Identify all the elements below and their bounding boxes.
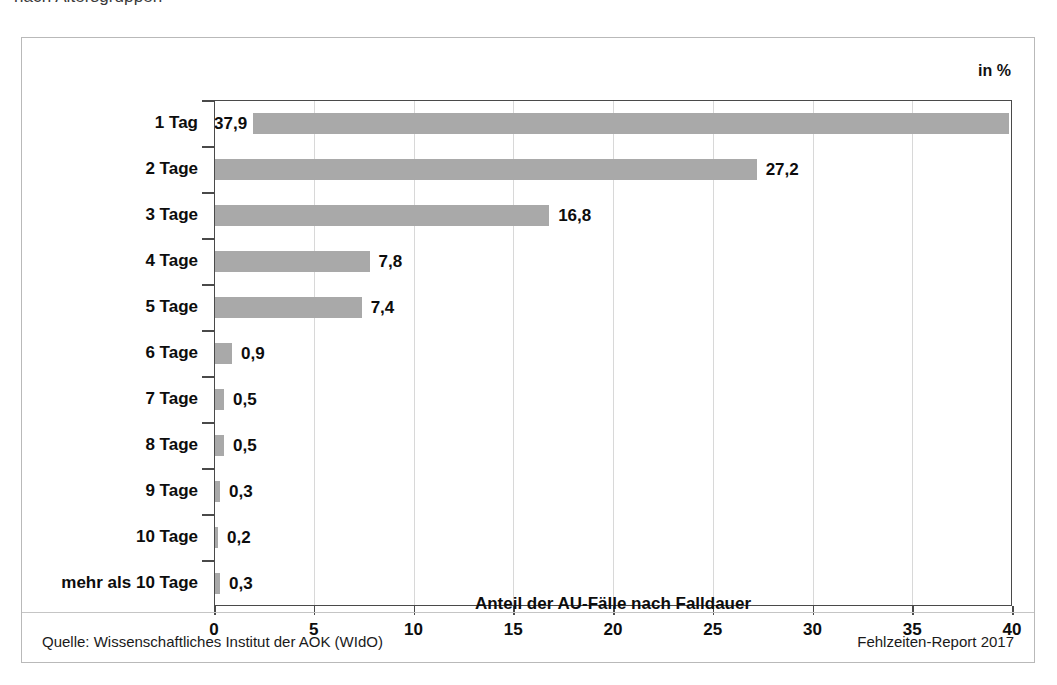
bar[interactable] [214,297,362,318]
bar-row[interactable]: 0,3 [214,570,1012,596]
plot-area: 37,927,216,87,87,40,90,50,50,30,20,3 [214,100,1012,606]
category-label: 1 Tag [155,114,198,131]
category-label: mehr als 10 Tage [61,574,198,591]
category-label: 5 Tage [145,298,198,315]
y-axis-tick [202,284,214,286]
category-label: 8 Tage [145,436,198,453]
figure-container: in % 37,927,216,87,87,40,90,50,50,30,20,… [21,37,1035,663]
bar-row[interactable]: 37,9 [214,110,1012,136]
y-axis-tick [202,560,214,562]
footer-report: Fehlzeiten-Report 2017 [857,633,1014,650]
category-label: 10 Tage [136,528,198,545]
bar[interactable] [214,481,220,502]
footer-source: Quelle: Wissenschaftliches Institut der … [42,633,383,650]
bar-rows: 37,927,216,87,87,40,90,50,50,30,20,3 [214,100,1012,606]
bar-row[interactable]: 0,5 [214,432,1012,458]
unit-label: in % [978,62,1011,80]
bar-value-label: 0,5 [233,391,257,408]
bar[interactable] [214,159,757,180]
bar-row[interactable]: 27,2 [214,156,1012,182]
bar-row[interactable]: 0,3 [214,478,1012,504]
category-label: 6 Tage [145,344,198,361]
category-label: 2 Tage [145,160,198,177]
x-axis-title: Anteil der AU-Fälle nach Falldauer [214,594,1012,614]
bar[interactable] [214,389,224,410]
x-axis-tick [1012,606,1014,615]
bar[interactable] [214,573,220,594]
category-label: 3 Tage [145,206,198,223]
category-label: 9 Tage [145,482,198,499]
bar-value-label: 0,5 [233,437,257,454]
cutoff-headline: nach Altersgruppen [14,0,162,7]
bar[interactable] [214,251,370,272]
bar-row[interactable]: 7,8 [214,248,1012,274]
bar-value-label: 37,9 [214,115,247,132]
category-label: 4 Tage [145,252,198,269]
bar-value-label: 7,4 [371,299,395,316]
bar-value-label: 0,3 [229,575,253,592]
bar-row[interactable]: 0,5 [214,386,1012,412]
y-axis-tick [202,376,214,378]
category-label: 7 Tage [145,390,198,407]
footer: Quelle: Wissenschaftliches Institut der … [22,621,1034,662]
bar-row[interactable]: 7,4 [214,294,1012,320]
bar[interactable] [214,343,232,364]
bar-value-label: 16,8 [558,207,591,224]
bar-value-label: 0,2 [227,529,251,546]
y-axis-tick [202,422,214,424]
bar-row[interactable]: 16,8 [214,202,1012,228]
bar-value-label: 0,9 [241,345,265,362]
bar[interactable] [214,205,549,226]
bar[interactable] [253,113,1009,134]
bar[interactable] [214,435,224,456]
bar-row[interactable]: 0,2 [214,524,1012,550]
y-axis-tick [202,192,214,194]
y-axis-tick [202,330,214,332]
bar[interactable] [214,527,218,548]
bar-value-label: 0,3 [229,483,253,500]
bar-value-label: 7,8 [379,253,403,270]
y-axis-tick [202,238,214,240]
bar-row[interactable]: 0,9 [214,340,1012,366]
y-axis-tick [202,514,214,516]
bar-value-label: 27,2 [766,161,799,178]
y-axis-tick [202,468,214,470]
y-axis-tick [202,146,214,148]
y-axis-tick [202,100,214,102]
footer-divider [22,612,1034,613]
